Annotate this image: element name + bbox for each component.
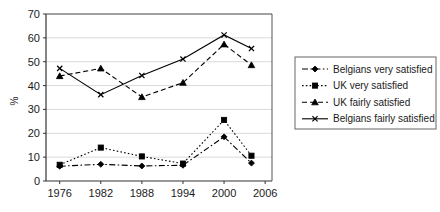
y-tick-label-40: 40: [28, 80, 40, 92]
x-tick-label-1976: 1976: [47, 187, 71, 199]
data-point-1-3: [180, 161, 185, 166]
x-tick-label-1982: 1982: [89, 187, 113, 199]
data-point-1-5: [249, 153, 254, 158]
series-line-1: [60, 120, 252, 165]
y-axis-title: %: [9, 96, 20, 105]
legend-marker-square: [312, 83, 317, 88]
series-0: [57, 134, 255, 169]
data-point-1-4: [221, 117, 226, 122]
x-tick-label-2000: 2000: [212, 187, 236, 199]
chart-container: 010203040506070 197619821988199420002006…: [0, 0, 440, 212]
data-point-1-0: [57, 162, 62, 167]
y-tick-label-10: 10: [28, 151, 40, 163]
data-point-0-2: [139, 163, 145, 169]
series-1: [57, 117, 254, 167]
y-tick-labels: 010203040506070: [28, 8, 40, 187]
x-tick-label-1988: 1988: [130, 187, 154, 199]
data-point-0-1: [98, 161, 104, 167]
data-point-2-2: [139, 94, 146, 100]
data-point-1-1: [98, 145, 103, 150]
series-layer: [56, 32, 254, 169]
data-point-3-5: [249, 46, 254, 51]
legend-label-2: UK fairly satisfied: [333, 97, 410, 108]
gridlines: [46, 14, 272, 157]
y-tick-label-60: 60: [28, 32, 40, 44]
x-tick-label-2006: 2006: [253, 187, 277, 199]
data-point-3-0: [57, 66, 62, 71]
data-point-3-3: [180, 56, 185, 61]
y-tick-label-20: 20: [28, 127, 40, 139]
legend-label-0: Belgians very satisfied: [333, 64, 433, 75]
plot-frame: [46, 14, 272, 181]
data-point-3-4: [221, 32, 226, 37]
y-tick-label-70: 70: [28, 8, 40, 20]
data-point-1-2: [139, 154, 144, 159]
data-point-2-1: [97, 65, 104, 71]
y-tick-label-50: 50: [28, 56, 40, 68]
x-tick-labels: 197619821988199420002006: [47, 187, 277, 199]
chart-legend: Belgians very satisfiedUK very satisfied…: [295, 57, 436, 129]
series-line-0: [60, 137, 252, 166]
line-chart: 010203040506070 197619821988199420002006…: [0, 0, 440, 212]
series-line-2: [60, 44, 252, 97]
data-point-2-4: [221, 41, 228, 47]
legend-label-1: UK very satisfied: [333, 80, 408, 91]
y-tick-label-30: 30: [28, 103, 40, 115]
x-tick-label-1994: 1994: [171, 187, 195, 199]
legend-label-3: Belgians fairly satisfied: [333, 113, 435, 124]
y-tick-label-0: 0: [34, 175, 40, 187]
data-point-3-2: [139, 73, 144, 78]
data-point-2-5: [248, 62, 255, 68]
data-point-3-1: [98, 92, 103, 97]
